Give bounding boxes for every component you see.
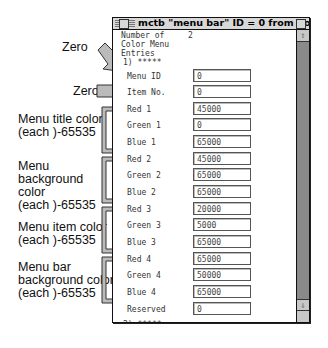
annotation-line: (each )-65535	[18, 234, 107, 247]
blue-3-field[interactable]: 65000	[193, 235, 251, 248]
field-label-blue-2: Blue 2	[127, 188, 156, 197]
annotation-line: (each )-65535	[18, 199, 96, 212]
field-label-green-3: Green 3	[127, 221, 161, 230]
annotation-menu-background-color: Menu background color (each )-65535	[18, 160, 96, 212]
field-label-reserved: Reserved	[127, 305, 166, 314]
annotation-zero-item-no: Zero	[73, 85, 99, 98]
field-label-red-3: Red 3	[127, 205, 151, 214]
blue-1-field[interactable]: 65000	[193, 135, 251, 148]
title-bar[interactable]: mctb "menu bar" ID = 0 from Color	[113, 18, 309, 30]
field-label-green-1: Green 1	[127, 121, 161, 130]
field-label-red-4: Red 4	[127, 255, 151, 264]
count-label: Number of Color Menu Entries	[121, 31, 169, 58]
green-3-field[interactable]: 5000	[193, 218, 251, 231]
count-label-line: Number of	[121, 31, 169, 40]
blue-2-field[interactable]: 65000	[193, 185, 251, 198]
zoom-box[interactable]	[296, 19, 306, 29]
count-label-line: Color Menu	[121, 40, 169, 49]
reserved-field[interactable]: 0	[193, 302, 251, 315]
red-2-field[interactable]: 45000	[193, 152, 251, 165]
window-title: mctb "menu bar" ID = 0 from Color	[135, 18, 309, 28]
grow-box-icon[interactable]	[297, 310, 309, 322]
field-list: Number of Color Menu Entries 2 1) ***** …	[113, 30, 296, 322]
annotation-zero-menu-id: Zero	[62, 41, 88, 54]
close-box[interactable]	[119, 19, 129, 29]
annotation-line: (each )-65535	[18, 126, 103, 139]
field-label-green-4: Green 4	[127, 271, 161, 280]
field-label-blue-1: Blue 1	[127, 138, 156, 147]
count-label-line: Entries	[121, 49, 169, 58]
field-label-blue-3: Blue 3	[127, 238, 156, 247]
vertical-scrollbar[interactable]: ⇧ ⇩	[296, 30, 309, 322]
annotation-menu-title-color: Menu title color (each )-65535	[18, 113, 103, 139]
field-label-red-1: Red 1	[127, 105, 151, 114]
red-1-field[interactable]: 45000	[193, 102, 251, 115]
green-1-field[interactable]: 0	[193, 118, 251, 131]
entry-2-marker: 2) *****	[123, 320, 162, 322]
field-label-green-2: Green 2	[127, 171, 161, 180]
field-label-red-2: Red 2	[127, 155, 151, 164]
green-4-field[interactable]: 50000	[193, 268, 251, 281]
field-label-menu-id: Menu ID	[127, 72, 161, 81]
blue-4-field[interactable]: 65000	[193, 285, 251, 298]
entry-1-marker: 1) *****	[123, 58, 162, 67]
red-4-field[interactable]: 65000	[193, 252, 251, 265]
item-no-field[interactable]: 0	[193, 85, 251, 98]
annotation-menu-item-color: Menu item color (each )-65535	[18, 221, 107, 247]
red-3-field[interactable]: 20000	[193, 202, 251, 215]
green-2-field[interactable]: 65000	[193, 168, 251, 181]
count-value: 2	[188, 31, 193, 40]
field-label-blue-4: Blue 4	[127, 288, 156, 297]
field-label-item-no: Item No.	[127, 88, 166, 97]
resource-editor-window: mctb "menu bar" ID = 0 from Color Number…	[112, 17, 310, 323]
menu-id-field[interactable]: 0	[193, 69, 251, 82]
scroll-up-arrow-icon[interactable]: ⇧	[297, 30, 309, 42]
